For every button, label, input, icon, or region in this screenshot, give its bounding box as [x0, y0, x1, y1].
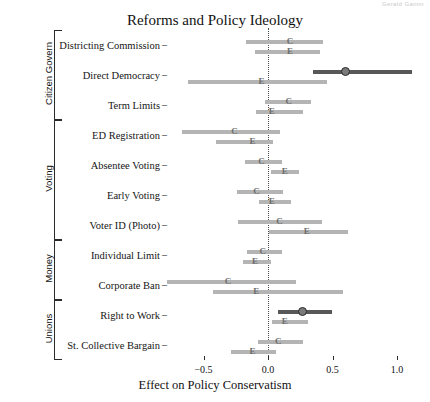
point-estimate-marker-c: C	[273, 337, 283, 346]
point-estimate-dot	[298, 307, 307, 316]
category-label: ED Registration	[92, 130, 160, 142]
category-label: Voter ID (Photo)	[90, 220, 160, 232]
category-tick: –	[162, 99, 167, 110]
point-estimate-marker-e: E	[251, 287, 261, 296]
point-estimate-marker-c: C	[275, 217, 285, 226]
category-tick: –	[162, 189, 167, 200]
point-estimate-marker-c: C	[223, 277, 233, 286]
point-estimate-marker-e: E	[302, 227, 312, 236]
x-axis-tick	[204, 356, 205, 360]
x-axis-tick	[268, 356, 269, 360]
confidence-interval-bar	[213, 290, 343, 294]
point-estimate-dot	[341, 67, 350, 76]
x-axis-tick-label: 0.5	[313, 364, 353, 375]
category-tick: –	[162, 339, 167, 350]
category-tick: –	[162, 69, 167, 80]
point-estimate-marker-e: E	[285, 47, 295, 56]
category-label: Early Voting	[107, 190, 160, 202]
point-estimate-marker-e: E	[257, 77, 267, 86]
plot-area: Districting Commission–CEDirect Democrac…	[0, 0, 430, 402]
category-label: Right to Work	[100, 310, 160, 322]
confidence-interval-bar	[216, 140, 273, 144]
category-label: Direct Democracy	[83, 70, 160, 82]
point-estimate-marker-e: E	[267, 107, 277, 116]
x-axis-tick-label: −0.5	[184, 364, 224, 375]
confidence-interval-bar	[256, 110, 302, 114]
category-label: Corporate Ban	[98, 280, 160, 292]
category-label: Individual Limit	[91, 250, 160, 262]
x-axis-tick-label: 0.0	[248, 364, 288, 375]
figure-root: Gerald Gamm Reforms and Policy Ideology …	[0, 0, 430, 402]
point-estimate-marker-e: E	[248, 347, 258, 356]
x-axis-tick-label: 1.0	[377, 364, 417, 375]
category-tick: –	[162, 39, 167, 50]
point-estimate-marker-c: C	[285, 37, 295, 46]
point-estimate-marker-c: C	[284, 97, 294, 106]
category-tick: –	[162, 249, 167, 260]
category-label: Districting Commission	[59, 40, 160, 52]
group-label: Citizen Govern	[43, 30, 54, 118]
category-label: Term Limits	[108, 100, 160, 112]
point-estimate-marker-c: C	[229, 127, 239, 136]
point-estimate-marker-c: C	[251, 187, 261, 196]
group-label: Voting	[43, 120, 54, 238]
x-axis-tick	[397, 356, 398, 360]
category-tick: –	[162, 129, 167, 140]
group-bracket	[54, 240, 62, 300]
category-label: St. Collective Bargain	[67, 340, 160, 352]
category-tick: –	[162, 309, 167, 320]
category-tick: –	[162, 159, 167, 170]
point-estimate-marker-e: E	[248, 137, 258, 146]
category-tick: –	[162, 279, 167, 290]
group-bracket	[54, 30, 62, 120]
point-estimate-marker-e: E	[267, 197, 277, 206]
group-label: Unions	[43, 300, 54, 358]
point-estimate-marker-e: E	[280, 317, 290, 326]
category-label: Absentee Voting	[91, 160, 160, 172]
point-estimate-marker-e: E	[280, 167, 290, 176]
group-bracket	[54, 300, 62, 360]
confidence-interval-bar	[313, 70, 412, 74]
category-tick: –	[162, 219, 167, 230]
point-estimate-marker-c: C	[258, 247, 268, 256]
x-axis-tick	[333, 356, 334, 360]
group-label: Money	[43, 240, 54, 298]
group-bracket	[54, 120, 62, 240]
x-axis-title: Effect on Policy Conservatism	[0, 378, 430, 393]
point-estimate-marker-e: E	[250, 257, 260, 266]
confidence-interval-bar	[272, 320, 308, 324]
point-estimate-marker-c: C	[257, 157, 267, 166]
